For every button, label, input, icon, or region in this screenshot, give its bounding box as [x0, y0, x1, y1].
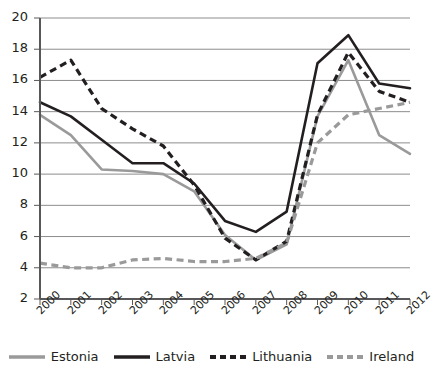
legend-swatch-estonia	[8, 351, 46, 362]
y-axis-tick-label: 10	[2, 165, 28, 180]
y-axis-tick-label: 6	[2, 228, 28, 243]
y-axis-tick-label: 8	[2, 196, 28, 211]
y-axis-tick-label: 16	[2, 71, 28, 86]
legend-label: Lithuania	[252, 349, 312, 364]
legend-item-estonia[interactable]: Estonia	[8, 349, 99, 364]
legend-swatch-lithuania	[209, 351, 247, 362]
y-axis-tick-label: 2	[2, 290, 28, 305]
legend-label: Latvia	[156, 349, 196, 364]
legend-item-latvia[interactable]: Latvia	[113, 349, 196, 364]
y-axis-tick-label: 18	[2, 40, 28, 55]
chart-legend: EstoniaLatviaLithuaniaIreland	[0, 345, 422, 367]
legend-item-ireland[interactable]: Ireland	[326, 349, 414, 364]
series-line-lithuania	[40, 52, 410, 260]
y-axis-tick-label: 20	[2, 9, 28, 24]
gridlines	[40, 18, 410, 268]
series-line-estonia	[40, 60, 410, 260]
y-axis-tick-label: 12	[2, 134, 28, 149]
legend-swatch-latvia	[113, 351, 151, 362]
legend-label: Ireland	[369, 349, 414, 364]
y-axis-tick-label: 14	[2, 103, 28, 118]
series-line-ireland	[40, 102, 410, 267]
y-axis-tick-label: 4	[2, 259, 28, 274]
legend-item-lithuania[interactable]: Lithuania	[209, 349, 312, 364]
series-line-latvia	[40, 35, 410, 232]
series-lines	[40, 35, 410, 268]
legend-label: Estonia	[51, 349, 99, 364]
legend-swatch-ireland	[326, 351, 364, 362]
